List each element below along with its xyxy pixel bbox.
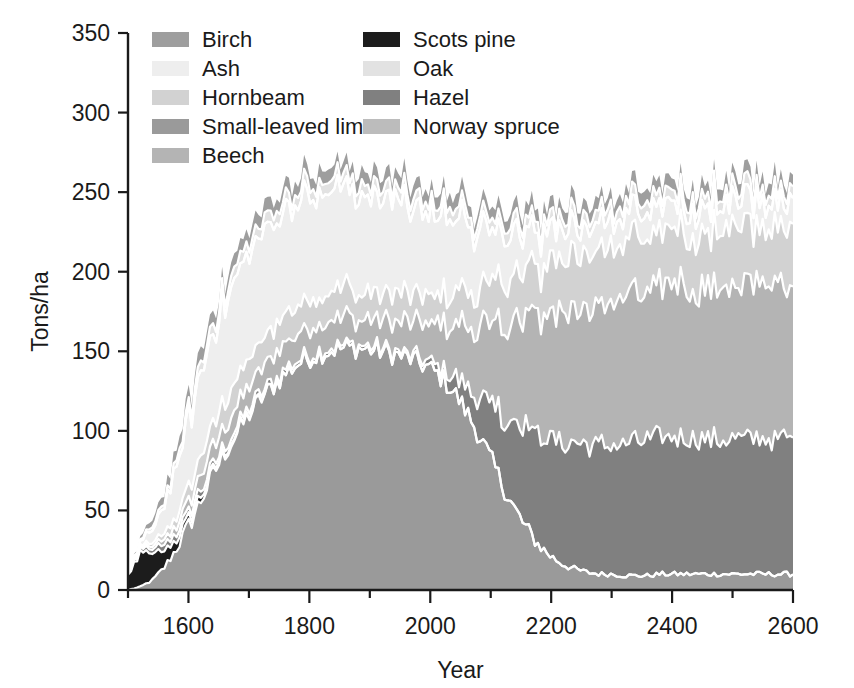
x-tick-label: 1800 (284, 613, 335, 639)
legend: BirchAshHornbeamSmall-leaved limeBeechSc… (152, 27, 560, 168)
legend-swatch-oak (363, 61, 400, 76)
legend-label-ash: Ash (202, 56, 240, 81)
legend-swatch-hazel (363, 90, 400, 105)
legend-swatch-scots-pine (363, 32, 400, 47)
legend-swatch-beech (152, 148, 189, 163)
legend-swatch-small-leaved-lime (152, 119, 189, 134)
legend-label-beech: Beech (202, 143, 264, 168)
y-tick-label: 150 (72, 338, 110, 364)
x-tick-label: 2400 (647, 613, 698, 639)
y-axis-title: Tons/ha (27, 271, 53, 352)
stacked-area-chart: 0501001502002503003501600180020002200240… (0, 0, 854, 688)
x-tick-label: 2600 (767, 613, 818, 639)
y-tick-label: 200 (72, 259, 110, 285)
x-tick-label: 2000 (405, 613, 456, 639)
y-tick-label: 250 (72, 179, 110, 205)
legend-label-hazel: Hazel (413, 85, 469, 110)
legend-label-birch: Birch (202, 27, 252, 52)
legend-label-norway-spruce: Norway spruce (413, 114, 560, 139)
x-tick-label: 2200 (526, 613, 577, 639)
y-tick-label: 50 (84, 497, 110, 523)
y-tick-label: 300 (72, 100, 110, 126)
y-tick-label: 100 (72, 418, 110, 444)
legend-swatch-birch (152, 32, 189, 47)
chart-figure: 0501001502002503003501600180020002200240… (0, 0, 854, 688)
legend-label-scots-pine: Scots pine (413, 27, 516, 52)
legend-label-hornbeam: Hornbeam (202, 85, 305, 110)
legend-label-small-leaved-lime: Small-leaved lime (202, 114, 376, 139)
legend-swatch-norway-spruce (363, 119, 400, 134)
legend-swatch-hornbeam (152, 90, 189, 105)
y-tick-label: 0 (97, 577, 110, 603)
x-axis-title: Year (437, 657, 484, 683)
legend-swatch-ash (152, 61, 189, 76)
legend-label-oak: Oak (413, 56, 454, 81)
x-tick-label: 1600 (163, 613, 214, 639)
y-tick-label: 350 (72, 20, 110, 46)
